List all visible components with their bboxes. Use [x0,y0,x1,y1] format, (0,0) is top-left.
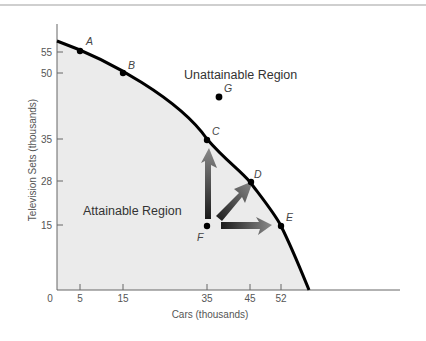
svg-text:52: 52 [275,293,287,304]
svg-text:50: 50 [41,68,53,79]
svg-text:D: D [254,168,262,180]
y-axis-title: Television Sets (thousands) [27,99,38,221]
svg-text:5: 5 [77,293,83,304]
point-g: G [216,82,233,100]
y-tick-labels: 55 50 35 28 15 [41,47,53,231]
attainable-region-label: Attainable Region [83,204,182,218]
point-e: E [278,211,294,229]
svg-text:15: 15 [41,220,53,231]
ppf-chart: 55 50 35 28 15 0 5 15 35 45 52 Cars (tho… [0,0,426,341]
svg-text:0: 0 [47,293,53,304]
svg-text:55: 55 [41,47,53,58]
svg-text:15: 15 [117,293,129,304]
svg-text:E: E [286,211,294,223]
svg-text:28: 28 [41,176,53,187]
svg-text:35: 35 [41,134,53,145]
svg-text:45: 45 [244,293,256,304]
unattainable-region-label: Unattainable Region [184,68,297,82]
x-axis-title: Cars (thousands) [172,309,249,320]
svg-text:B: B [128,59,135,71]
svg-text:G: G [224,82,232,94]
svg-text:C: C [212,125,220,137]
point-d: D [248,168,262,185]
svg-text:A: A [85,35,93,47]
svg-text:35: 35 [201,293,213,304]
svg-text:F: F [197,231,204,243]
point-c: C [204,125,220,143]
x-tick-labels: 0 5 15 35 45 52 [47,293,287,304]
